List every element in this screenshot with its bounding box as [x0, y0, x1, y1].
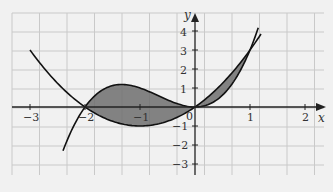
- chart-figure: x y 0 −3 −2 −1 1 2 4 3 2 1 −1 −2 −3: [0, 0, 333, 192]
- x-tick-1: 1: [247, 111, 254, 124]
- y-tick-4: 4: [180, 26, 187, 39]
- x-tick-minus2: −2: [78, 111, 94, 124]
- y-tick-3: 3: [180, 45, 187, 58]
- x-tick-2: 2: [302, 111, 309, 124]
- axes: [12, 13, 326, 175]
- grid: [12, 13, 324, 175]
- y-tick-minus1: −1: [172, 120, 188, 133]
- x-axis-label: x: [318, 111, 325, 125]
- plot-area: x y 0 −3 −2 −1 1 2 4 3 2 1 −1 −2 −3: [0, 0, 333, 192]
- y-axis-arrow-icon: [191, 13, 199, 22]
- y-tick-minus3: −3: [172, 158, 188, 171]
- x-tick-minus1: −1: [133, 111, 149, 124]
- shaded-region: [85, 50, 250, 126]
- y-tick-2: 2: [180, 64, 187, 77]
- x-axis-arrow-icon: [316, 103, 326, 111]
- y-axis-label: y: [183, 8, 191, 22]
- y-tick-1: 1: [180, 83, 187, 96]
- x-tick-minus3: −3: [23, 111, 39, 124]
- y-tick-minus2: −2: [172, 139, 188, 152]
